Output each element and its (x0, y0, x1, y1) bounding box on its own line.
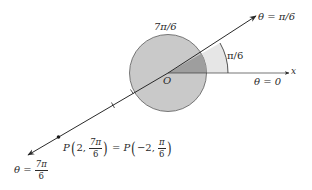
label-theta-0: θ = 0 (254, 77, 281, 87)
label-point-p: P(2, 7π6) = P(−2, π6) (63, 138, 172, 158)
tick-mark-r1 (131, 90, 134, 95)
label-origin: O (163, 76, 171, 86)
label-theta-pi6: θ = π/6 (258, 12, 295, 22)
label-theta-7pi6: θ = 7π6 (14, 160, 48, 180)
label-arc-7pi6: 7π/6 (154, 22, 177, 32)
label-angle-pi6: π/6 (227, 51, 243, 61)
label-x-axis: x (291, 67, 296, 76)
point-p (57, 135, 61, 139)
